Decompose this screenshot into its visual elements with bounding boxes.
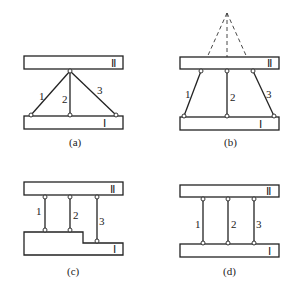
pin-icon <box>68 69 72 73</box>
panel-b: Ⅱ Ⅰ 1 2 3 (b) <box>180 13 279 149</box>
body-ii <box>24 182 123 195</box>
panel-a: Ⅱ Ⅰ 1 2 3 (a) <box>24 56 123 149</box>
link-3-label: 3 <box>266 88 272 100</box>
caption-a: (a) <box>69 136 82 149</box>
body-ii-label: Ⅱ <box>110 183 115 195</box>
pin-icon <box>199 69 203 73</box>
pin-icon <box>252 241 256 245</box>
pin-icon <box>182 114 186 118</box>
pin-icon <box>29 113 33 117</box>
pin-icon <box>43 195 47 199</box>
body-i <box>180 244 279 257</box>
link-1-label: 1 <box>185 88 191 100</box>
link-3-label: 3 <box>99 215 105 227</box>
pin-icon <box>43 228 47 232</box>
body-i-label: Ⅰ <box>268 245 271 257</box>
pin-icon <box>226 241 230 245</box>
pin-icon <box>251 69 255 73</box>
body-ii <box>180 57 279 69</box>
kinematic-linkage-figure: Ⅱ Ⅰ 1 2 3 (a) Ⅱ Ⅰ 1 2 3 (b) <box>0 0 303 294</box>
pin-icon <box>95 195 99 199</box>
panel-c: Ⅱ Ⅰ 1 2 3 (c) <box>24 182 123 278</box>
caption-b: (b) <box>224 136 237 149</box>
pin-icon <box>226 197 230 201</box>
body-ii-label: Ⅱ <box>266 185 271 197</box>
body-i <box>24 116 123 129</box>
link-2-label: 2 <box>231 218 237 230</box>
body-i-label: Ⅰ <box>259 118 262 130</box>
link-1-label: 1 <box>39 90 45 102</box>
pin-icon <box>68 195 72 199</box>
link-3 <box>70 71 116 115</box>
link-2-label: 2 <box>230 91 236 103</box>
body-ii-label: Ⅱ <box>111 57 116 69</box>
body-ii <box>24 56 123 69</box>
link-1-label: 1 <box>36 205 42 217</box>
pin-icon <box>225 114 229 118</box>
pin-icon <box>252 197 256 201</box>
caption-d: (d) <box>223 265 236 278</box>
link-2-label: 2 <box>62 93 68 105</box>
pin-icon <box>68 228 72 232</box>
link-2-label: 2 <box>73 209 79 221</box>
body-i-label: Ⅰ <box>103 117 106 129</box>
pin-icon <box>272 114 276 118</box>
pin-icon <box>95 239 99 243</box>
body-ii <box>180 185 279 197</box>
body-ii-label: Ⅱ <box>267 57 272 69</box>
link-3-label: 3 <box>97 84 103 96</box>
pin-icon <box>114 113 118 117</box>
panel-d: Ⅱ Ⅰ 1 2 3 (d) <box>180 185 279 278</box>
body-i <box>180 117 279 130</box>
body-i-label: Ⅰ <box>113 243 116 255</box>
link-3-label: 3 <box>256 218 262 230</box>
body-i-stepped <box>24 232 123 255</box>
pin-icon <box>68 113 72 117</box>
pin-icon <box>201 197 205 201</box>
pin-icon <box>201 241 205 245</box>
caption-c: (c) <box>67 265 80 278</box>
link-1-label: 1 <box>195 218 201 230</box>
pin-icon <box>225 69 229 73</box>
